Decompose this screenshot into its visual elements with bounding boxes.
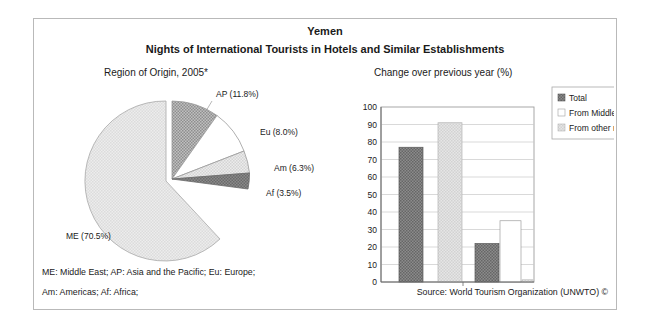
pie-label-me: ME (70.5%) bbox=[66, 231, 111, 241]
bar-total-2005 bbox=[475, 244, 499, 283]
y-tick-0: 0 bbox=[372, 277, 377, 287]
pie-chart: AP (11.8%) Eu (8.0%) Am (6.3%) Af (3.5%)… bbox=[44, 79, 344, 279]
pie-label-ap: AP (11.8%) bbox=[216, 89, 259, 99]
footnote-abbreviations-line1: ME: Middle East; AP: Asia and the Pacifi… bbox=[42, 267, 255, 277]
figure-subtitle: Nights of International Tourists in Hote… bbox=[34, 42, 616, 57]
y-tick-40: 40 bbox=[368, 207, 378, 217]
legend-label-total: Total bbox=[569, 93, 587, 103]
figure-frame: Yemen Nights of International Tourists i… bbox=[33, 18, 617, 310]
y-tick-100: 100 bbox=[363, 102, 377, 112]
bar-chart: 100 90 80 70 60 50 40 30 20 10 0 bbox=[334, 77, 614, 287]
y-tick-80: 80 bbox=[368, 137, 378, 147]
y-axis-ticks: 100 90 80 70 60 50 40 30 20 10 0 bbox=[363, 102, 377, 287]
legend-swatch-other-regions bbox=[558, 124, 565, 131]
legend-swatch-middle-east bbox=[558, 109, 565, 116]
pie-svg: AP (11.8%) Eu (8.0%) Am (6.3%) Af (3.5%)… bbox=[44, 79, 344, 279]
bar-other-regions-2004 bbox=[438, 123, 462, 282]
source-note: Source: World Tourism Organization (UNWT… bbox=[417, 287, 608, 297]
bar-svg: 100 90 80 70 60 50 40 30 20 10 0 bbox=[334, 77, 614, 287]
y-tick-50: 50 bbox=[368, 190, 378, 200]
pie-label-eu: Eu (8.0%) bbox=[260, 127, 298, 137]
legend-label-other-regions: From other regions bbox=[569, 123, 614, 133]
y-tick-20: 20 bbox=[368, 242, 378, 252]
y-tick-60: 60 bbox=[368, 172, 378, 182]
bar-middle-east-2005 bbox=[500, 221, 521, 282]
y-tick-90: 90 bbox=[368, 120, 378, 130]
footnote-abbreviations-line2: Am: Americas; Af: Africa; bbox=[42, 287, 138, 297]
pie-label-af: Af (3.5%) bbox=[266, 188, 302, 198]
pie-leader-ap bbox=[206, 101, 212, 111]
legend-swatch-total bbox=[558, 94, 565, 101]
pie-label-am: Am (6.3%) bbox=[274, 163, 314, 173]
y-tick-10: 10 bbox=[368, 260, 378, 270]
title-block: Yemen Nights of International Tourists i… bbox=[34, 24, 616, 57]
bar-legend: Total From Middle East From other region… bbox=[552, 87, 614, 139]
legend-label-middle-east: From Middle East bbox=[569, 108, 614, 118]
y-tick-30: 30 bbox=[368, 225, 378, 235]
bar-total-2004 bbox=[399, 147, 423, 282]
pie-panel-title: Region of Origin, 2005* bbox=[104, 67, 208, 78]
page-title: Yemen bbox=[34, 24, 616, 39]
y-tick-70: 70 bbox=[368, 155, 378, 165]
